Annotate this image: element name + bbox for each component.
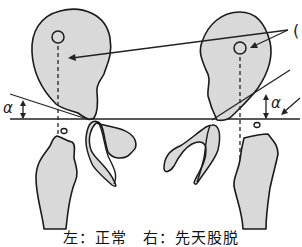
left-femur [36,136,77,229]
left-ilium [32,9,111,119]
left-alpha-label: α [3,99,13,117]
right-alpha-label: α [271,94,281,112]
left-pubis [86,121,136,186]
pointer-label-partial: ( [293,21,299,40]
right-alpha-arrowhead-bottom [263,113,269,119]
right-pubis [164,125,220,184]
left-alpha-arrowhead-bottom [20,113,26,119]
right-small-ossicle [254,123,260,128]
left-small-ossicle [61,129,67,134]
right-alpha-arrowhead-top [263,94,269,100]
left-alpha-arrowhead-top [20,100,26,106]
figure-caption: 左：正常 右：先天股脱 [0,226,302,247]
right-pointer-arrow [284,98,300,112]
